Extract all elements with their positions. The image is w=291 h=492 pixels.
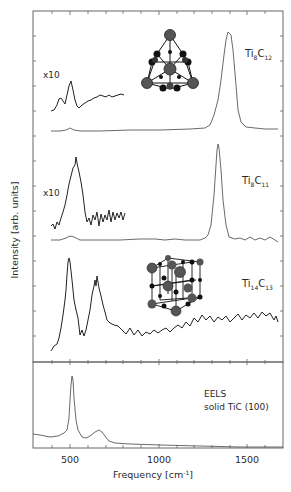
raman-spectra-chart: Ti8C12 Ti8C11 Ti14C13 x10 x10 EELS solid… <box>0 0 291 492</box>
y-axis-label: Intensity [arb. units] <box>9 182 20 279</box>
x-tick-label-1000: 1000 <box>147 454 171 465</box>
top-x-ticks <box>52 11 265 15</box>
eels-label-line1: EELS <box>204 389 226 399</box>
ti8c11-label: Ti8C11 <box>241 175 269 188</box>
ti8c12-x10-inset <box>51 81 124 111</box>
plot-frame-upper <box>33 11 283 362</box>
ti8c12-spectrum <box>51 32 278 131</box>
eels-label-line2: solid TiC (100) <box>204 402 269 412</box>
x-axis-label: Frequency [cm-1] <box>113 469 193 481</box>
ti8c12-label: Ti8C12 <box>244 48 272 61</box>
x-tick-label-500: 500 <box>61 454 79 465</box>
ti8c11-spectrum <box>51 144 278 242</box>
x-tick-label-1500: 1500 <box>235 454 259 465</box>
ti8c12-cluster-structure <box>142 30 199 92</box>
ti14c13-cubic-structure <box>147 255 204 316</box>
ti8c11-x10-inset <box>51 157 125 229</box>
ti8c11-x10-label: x10 <box>43 188 60 198</box>
ti14c13-label: Ti14C13 <box>241 278 273 291</box>
ti8c12-x10-label: x10 <box>43 70 60 80</box>
